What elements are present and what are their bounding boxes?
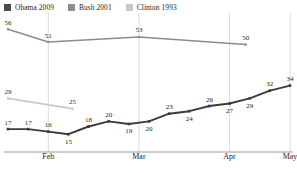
data-label: 53 [135, 26, 143, 34]
series-line-clinton-1993 [8, 98, 73, 108]
x-tick-mar: Mar [132, 152, 145, 161]
data-point-marker [7, 128, 10, 131]
data-label: 56 [5, 19, 13, 27]
data-point-marker [188, 110, 191, 113]
data-point-marker [67, 133, 70, 136]
data-point-marker [148, 120, 151, 123]
gridlines [48, 13, 290, 152]
legend-label-obama: Obama 2009 [15, 4, 54, 12]
data-point-marker [7, 97, 9, 99]
data-point-marker [107, 120, 110, 123]
legend-swatch-clinton [126, 4, 133, 11]
legend-label-clinton: Clinton 1993 [137, 4, 177, 12]
data-label: 16 [45, 121, 53, 129]
x-tick-apr: Apr [223, 152, 235, 161]
data-point-marker [228, 102, 231, 105]
legend-item-obama: Obama 2009 [4, 4, 54, 12]
data-point-marker [47, 130, 50, 133]
data-label: 50 [242, 34, 250, 42]
data-label: 17 [5, 119, 13, 127]
data-point-marker [269, 89, 272, 92]
data-label: 26 [206, 96, 214, 104]
data-label: 34 [287, 75, 295, 83]
series-layer [7, 28, 292, 135]
chart-svg: 1717161518201920232426272932345651535029… [0, 13, 297, 153]
data-label: 25 [69, 98, 77, 106]
data-point-marker [87, 125, 90, 128]
x-axis-labels: FebMarAprMay [0, 152, 297, 166]
data-point-marker [128, 123, 131, 126]
legend-label-bush: Bush 2001 [79, 4, 112, 12]
series-line-bush-2001 [8, 29, 246, 44]
data-point-marker [208, 105, 211, 108]
data-label: 51 [45, 32, 53, 40]
legend-swatch-obama [4, 4, 11, 11]
data-label: 27 [226, 107, 234, 115]
data-label: 29 [5, 88, 13, 96]
x-tick-may: May [283, 152, 297, 161]
data-point-marker [138, 36, 140, 38]
legend-item-bush: Bush 2001 [68, 4, 112, 12]
data-label: 20 [146, 125, 154, 133]
data-point-marker [71, 108, 73, 110]
data-point-marker [168, 112, 171, 115]
data-label: 18 [85, 116, 93, 124]
chart-legend: Obama 2009 Bush 2001 Clinton 1993 [4, 2, 191, 13]
data-point-marker [245, 44, 247, 46]
data-label: 32 [266, 80, 274, 88]
data-label: 24 [186, 115, 194, 123]
data-point-marker [27, 128, 30, 131]
legend-item-clinton: Clinton 1993 [126, 4, 177, 12]
data-point-marker [7, 28, 9, 30]
data-point-marker [248, 97, 251, 100]
legend-swatch-bush [68, 4, 75, 11]
data-point-marker [47, 41, 49, 43]
data-label: 17 [25, 119, 33, 127]
data-label: 20 [105, 111, 113, 119]
data-label: 19 [125, 127, 133, 135]
data-label: 29 [246, 102, 254, 110]
x-tick-feb: Feb [42, 152, 54, 161]
data-label: 15 [65, 138, 73, 146]
data-point-marker [289, 84, 292, 87]
plot-area: 1717161518201920232426272932345651535029… [0, 13, 297, 147]
line-chart: Obama 2009 Bush 2001 Clinton 1993 171716… [0, 0, 297, 173]
data-label: 23 [166, 103, 174, 111]
